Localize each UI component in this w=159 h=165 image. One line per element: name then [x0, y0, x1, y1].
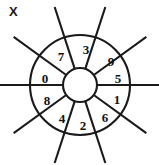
- sector-digit-6: 6: [102, 110, 109, 125]
- sector-digit-5: 5: [115, 71, 122, 86]
- sector-digit-1: 1: [114, 92, 121, 107]
- segmented-wheel-graphic: 3951624807: [0, 0, 159, 165]
- sector-digit-2: 2: [80, 118, 87, 133]
- wheel-diagram-figure: X 3951624807: [0, 0, 159, 165]
- sector-digit-4: 4: [59, 111, 66, 126]
- sector-digit-8: 8: [44, 93, 51, 108]
- inner-circle: [63, 68, 97, 102]
- sector-digit-9: 9: [108, 54, 115, 69]
- sector-digit-3: 3: [83, 42, 90, 57]
- sector-digit-0: 0: [42, 71, 49, 86]
- sector-digit-7: 7: [58, 49, 65, 64]
